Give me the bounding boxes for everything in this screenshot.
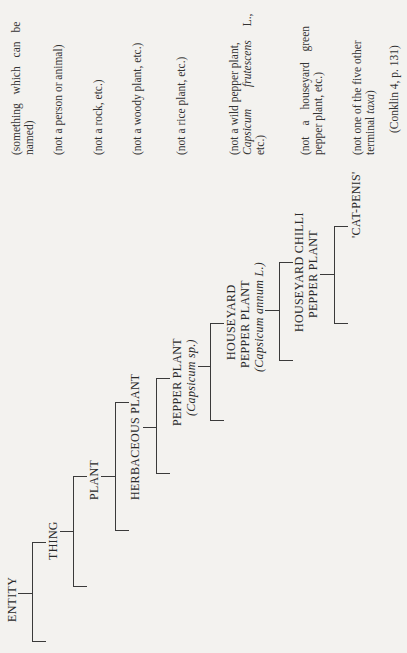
- herbaceous-branch-top: [156, 378, 170, 379]
- note-catpenis-taxa: taxa: [364, 94, 376, 114]
- thing-bracket: [73, 476, 74, 587]
- note-chilli-line2: pepper plant, etc.): [312, 72, 325, 155]
- citation: (Conklin 4, p. 131): [388, 45, 401, 133]
- note-entity-line1: (something which can be: [10, 22, 23, 155]
- note-plant: (not a rock, etc.): [92, 79, 105, 155]
- thing-branch-bottom: [73, 586, 87, 587]
- node-herbaceous-plant: HERBACEOUS PLANT: [129, 374, 142, 500]
- node-houseyard-line2: PEPPER PLANT: [239, 280, 252, 368]
- note-houseyard-line1: (not a wild pepper plant,: [228, 42, 241, 155]
- note-catpenis-line2: terminal taxa): [364, 90, 377, 155]
- pepper-stub: [198, 366, 210, 367]
- pepper-branch-top: [210, 323, 224, 324]
- chilli-bracket: [334, 226, 335, 324]
- herbaceous-stub: [143, 427, 156, 428]
- houseyard-branch-top: [279, 262, 293, 263]
- node-houseyard-chilli-line2: PEPPER PLANT: [307, 230, 320, 318]
- pepper-bracket: [210, 323, 211, 421]
- node-cat-penis: 'CAT-PENIS': [350, 171, 363, 238]
- note-herbaceous: (not a woody plant, etc.): [131, 43, 144, 155]
- node-pepper-plant-sci: (Capsicum sp.): [185, 339, 198, 416]
- chilli-branch-bottom: [334, 323, 348, 324]
- node-thing: THING: [47, 521, 60, 560]
- note-houseyard-capsicum: Capsicum: [241, 109, 253, 155]
- node-plant: PLANT: [88, 460, 101, 500]
- note-catpenis-terminal: terminal: [364, 114, 376, 155]
- plant-branch-top: [115, 402, 129, 403]
- herbaceous-branch-bottom: [156, 473, 170, 474]
- note-entity-line2: named): [23, 121, 36, 155]
- node-houseyard-sci: (Capsicum annum L.): [253, 262, 266, 372]
- entity-bracket: [32, 542, 33, 642]
- plant-branch-bottom: [115, 530, 129, 531]
- herbaceous-bracket: [156, 378, 157, 474]
- entity-branch-top: [32, 542, 46, 543]
- node-pepper-plant: PEPPER PLANT: [171, 338, 184, 426]
- node-houseyard-line1: HOUSEYARD: [225, 285, 238, 360]
- houseyard-branch-bottom: [279, 360, 293, 361]
- thing-stub: [60, 531, 73, 532]
- entity-branch-bottom: [32, 641, 46, 642]
- note-pepper: (not a rice plant, etc.): [175, 57, 188, 155]
- pepper-branch-bottom: [210, 420, 224, 421]
- note-houseyard-line3: etc.): [254, 135, 267, 155]
- taxonomy-diagram: ENTITY THING PLANT HERBACEOUS PLANT PEPP…: [0, 0, 407, 653]
- entity-stub: [18, 593, 32, 594]
- note-houseyard-line2: CapsicumfrutescensL.,: [241, 14, 254, 155]
- note-houseyard-l: L.,: [241, 14, 253, 27]
- plant-bracket: [115, 402, 116, 531]
- houseyard-stub: [265, 310, 279, 311]
- chilli-branch-top: [334, 226, 348, 227]
- chilli-stub: [320, 274, 334, 275]
- node-houseyard-chilli-line1: HOUSEYARD CHILLI: [293, 212, 306, 332]
- note-catpenis-line1: (not one of the five other: [351, 40, 364, 155]
- note-thing: (not a person or animal): [52, 45, 65, 156]
- node-entity: ENTITY: [6, 577, 19, 622]
- plant-stub: [101, 476, 115, 477]
- houseyard-bracket: [279, 262, 280, 361]
- note-houseyard-frutescens: frutescens: [241, 40, 253, 87]
- thing-branch-top: [73, 476, 87, 477]
- note-chilli-line1: (not a houseyard green: [299, 26, 312, 155]
- note-catpenis-close: ): [364, 90, 376, 94]
